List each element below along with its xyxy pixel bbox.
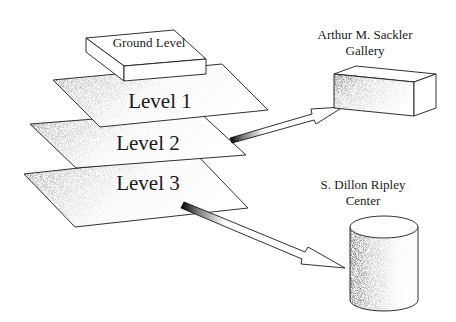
sackler-label-line1: Arthur M. Sackler	[318, 27, 414, 42]
ripley-center-cylinder: S. Dillon Ripley Center	[321, 177, 418, 311]
ground-level-label: Ground Level	[113, 35, 186, 50]
sackler-label-line2: Gallery	[346, 43, 385, 58]
arrow-to-ripley	[181, 202, 345, 268]
ripley-label-line1: S. Dillon Ripley	[321, 177, 406, 192]
ripley-label-line2: Center	[346, 193, 381, 208]
level-2-label: Level 2	[116, 131, 180, 155]
ground-level-slab: Ground Level	[86, 30, 206, 81]
level-3-label: Level 3	[116, 171, 180, 195]
sackler-gallery-box: Arthur M. Sackler Gallery	[318, 27, 436, 116]
level-1-label: Level 1	[128, 89, 192, 113]
levels-diagram: Level 3 Level 2 Level 1 Ground Level Art…	[0, 0, 456, 322]
